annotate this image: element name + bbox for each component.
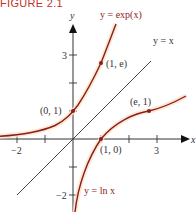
point-label-1-0: (1, 0) xyxy=(100,144,122,156)
x-axis-label: x xyxy=(190,134,196,145)
point-label-0-1: (0, 1) xyxy=(40,105,62,117)
identity-line-label: y = x xyxy=(153,35,174,46)
tick-label-y-3: 3 xyxy=(62,50,67,61)
y-axis-label: y xyxy=(69,10,75,21)
exp-curve-label: y = exp(x) xyxy=(100,9,142,21)
point-label-1-e: (1, e) xyxy=(106,58,127,70)
tick-label-x-neg2: −2 xyxy=(11,145,22,156)
point-label-e-1: (e, 1) xyxy=(130,96,151,108)
point-1-0 xyxy=(99,137,103,141)
point-e-1 xyxy=(147,109,151,113)
tick-label-y-neg2: −2 xyxy=(56,190,67,201)
point-0-1 xyxy=(71,109,75,113)
ln-curve-label: y = ln x xyxy=(84,185,115,196)
x-axis-arrow-icon xyxy=(181,135,190,143)
function-plot: y x y = exp(x) y = x y = ln x (0, 1) (1,… xyxy=(0,0,196,212)
y-axis-arrow-icon xyxy=(69,24,77,33)
exp-curve-glow xyxy=(0,24,116,136)
exp-curve xyxy=(0,24,116,136)
tick-label-x-3: 3 xyxy=(154,145,159,156)
point-1-e xyxy=(99,61,103,65)
